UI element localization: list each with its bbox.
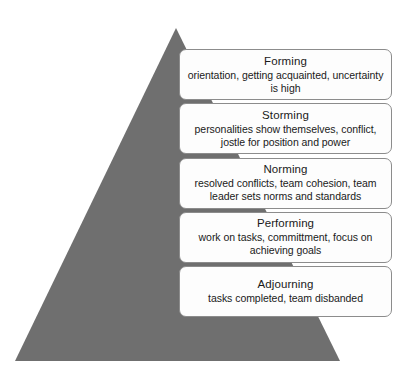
stage-title-norming: Norming [263,162,307,176]
stage-box-performing[interactable]: Performing work on tasks, committment, f… [179,212,392,263]
stage-title-storming: Storming [262,108,309,122]
diagram-canvas: Forming orientation, getting acquainted,… [0,0,414,380]
stage-title-adjourning: Adjourning [258,277,314,291]
stage-box-list: Forming orientation, getting acquainted,… [179,49,392,317]
stage-description-storming: personalities show themselves, conflict,… [185,123,386,149]
stage-title-forming: Forming [264,54,307,68]
stage-box-adjourning[interactable]: Adjourning tasks completed, team disband… [179,266,392,317]
stage-description-adjourning: tasks completed, team disbanded [208,292,363,305]
stage-title-performing: Performing [257,216,314,230]
stage-box-forming[interactable]: Forming orientation, getting acquainted,… [179,49,392,100]
stage-description-performing: work on tasks, committment, focus on ach… [185,231,386,257]
stage-description-forming: orientation, getting acquainted, uncerta… [185,69,386,95]
stage-box-storming[interactable]: Storming personalities show themselves, … [179,103,392,154]
stage-description-norming: resolved conflicts, team cohesion, team … [185,177,386,203]
stage-box-norming[interactable]: Norming resolved conflicts, team cohesio… [179,158,392,209]
